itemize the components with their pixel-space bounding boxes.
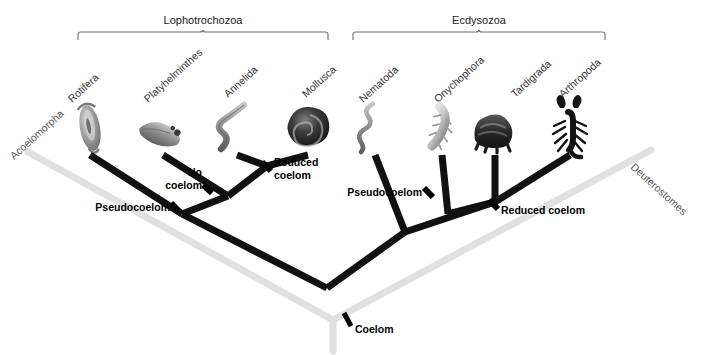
clade-labels-group: Lophotrochozoa Ecdysozoa — [164, 14, 507, 26]
bracket-ecdysozoa — [353, 30, 605, 40]
taxon-label-platyhelminthes: Platyhelminthes — [141, 46, 204, 105]
taxon-label-tardigrada: Tardigrada — [508, 57, 553, 99]
taxon-label-mollusca: Mollusca — [299, 63, 338, 100]
silhouette-nematoda — [359, 104, 373, 152]
taxon-label-annelida: Annelida — [221, 63, 260, 99]
silhouette-arthropoda — [553, 95, 587, 157]
trait-mark-pseudocoelom-right — [424, 188, 433, 197]
trait-marks-group — [171, 162, 498, 326]
taxon-label-onychophora: Onychophora — [431, 53, 486, 104]
clade-label-lophotrochozoa: Lophotrochozoa — [164, 14, 244, 26]
silhouettes-group — [76, 95, 587, 157]
trait-label-reduced-coelom-left-line2: coelom — [274, 169, 311, 181]
cladogram-svg: Lophotrochozoa Ecdysozoa Acoelomorpha Ro… — [0, 0, 713, 355]
outgroup-tree-group — [28, 150, 651, 351]
taxon-label-deuterostomes: Deuterostomes — [629, 161, 690, 218]
taxon-label-rotifera: Rotifera — [65, 71, 100, 105]
branch-internal-rotifera-to-platy — [182, 196, 228, 214]
branch-onychophora — [442, 155, 448, 214]
cladogram-branches-group — [90, 155, 570, 288]
trait-label-no-coelom-line1: No — [188, 166, 202, 178]
taxon-label-arthropoda: Arthropoda — [556, 56, 603, 100]
branch-ecdysozoa-stem — [327, 232, 405, 288]
trait-label-no-coelom-line2: coelom — [165, 179, 202, 191]
silhouette-annelida — [219, 105, 244, 149]
trait-labels-group: Pseudocoelom No coelom Reduced coelom Ps… — [95, 156, 585, 335]
clade-brackets-group — [78, 30, 605, 40]
trait-label-pseudocoelom-right: Pseudocoelom — [347, 186, 422, 198]
taxon-label-nematoda: Nematoda — [356, 63, 400, 104]
branch-arthropoda — [495, 155, 570, 202]
trait-label-pseudocoelom-left: Pseudocoelom — [95, 201, 170, 213]
silhouette-tardigrada — [474, 115, 512, 153]
silhouette-mollusca — [287, 107, 329, 146]
clade-label-ecdysozoa: Ecdysozoa — [452, 14, 507, 26]
phylogenetic-tree-figure: Lophotrochozoa Ecdysozoa Acoelomorpha Ro… — [0, 0, 713, 355]
bracket-lophotrochozoa — [78, 30, 328, 40]
silhouette-rotifera — [76, 102, 104, 154]
trait-label-coelom-root: Coelom — [355, 323, 394, 335]
trait-label-reduced-coelom-right: Reduced coelom — [501, 204, 585, 216]
trait-label-reduced-coelom-left-line1: Reduced — [274, 156, 318, 168]
silhouette-onychophora — [427, 106, 457, 151]
branch-internal-platy-to-annelidmollusc — [228, 166, 267, 196]
silhouette-platyhelminthes — [136, 113, 185, 154]
trait-mark-coelom-root — [344, 313, 351, 326]
